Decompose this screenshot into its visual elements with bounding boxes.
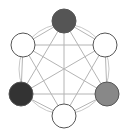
node-bottom [52,104,76,128]
complete-graph-diagram [0,0,127,134]
node-top [52,9,76,33]
node-lower-right [95,82,119,106]
edge-top-lower-right [64,21,107,94]
node-lower-left [9,82,33,106]
node-upper-right [93,33,117,57]
edge-top-lower-left [21,21,64,94]
node-upper-left [11,33,35,57]
